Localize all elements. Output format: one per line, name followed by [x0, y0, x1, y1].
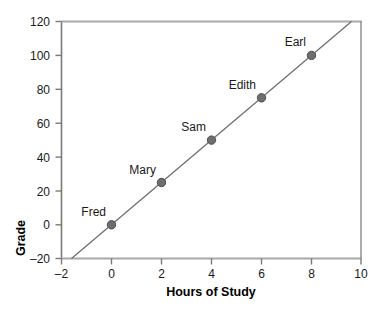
point-label-fred: Fred: [81, 205, 106, 219]
y-tick-label-neg20: –20: [30, 252, 50, 266]
y-tick-label-0: 0: [43, 218, 50, 232]
data-point-labels: Fred Mary Sam Edith Earl: [81, 35, 306, 219]
data-point-fred[interactable]: [107, 221, 115, 229]
x-tick-label-0: 0: [108, 267, 115, 281]
data-point-mary[interactable]: [157, 178, 165, 186]
y-tick-labels: 120 100 80 60 40 20 0 –20: [30, 15, 50, 266]
x-axis-title: Hours of Study: [166, 285, 256, 299]
x-tick-label-6: 6: [258, 267, 265, 281]
y-axis-ticks: [56, 22, 62, 259]
chart-canvas: 120 100 80 60 40 20 0 –20 –2 0 2 4 6 8 1…: [0, 0, 389, 316]
data-point-edith[interactable]: [257, 94, 265, 102]
y-tick-label-20: 20: [37, 185, 51, 199]
point-label-edith: Edith: [229, 78, 256, 92]
x-tick-label-8: 8: [308, 267, 315, 281]
y-tick-label-40: 40: [37, 151, 51, 165]
y-tick-label-120: 120: [30, 15, 50, 29]
x-tick-label-10: 10: [354, 267, 368, 281]
point-label-sam: Sam: [181, 120, 206, 134]
point-label-mary: Mary: [129, 163, 156, 177]
y-tick-label-80: 80: [37, 83, 51, 97]
scatter-chart: 120 100 80 60 40 20 0 –20 –2 0 2 4 6 8 1…: [0, 0, 389, 316]
y-tick-label-60: 60: [37, 117, 51, 131]
x-tick-label-4: 4: [208, 267, 215, 281]
x-tick-label-neg2: –2: [55, 267, 69, 281]
x-tick-label-2: 2: [158, 267, 165, 281]
data-point-earl[interactable]: [307, 51, 315, 59]
y-axis-title: Grade: [14, 220, 28, 256]
data-point-sam[interactable]: [207, 136, 215, 144]
point-label-earl: Earl: [285, 35, 306, 49]
y-tick-label-100: 100: [30, 49, 50, 63]
x-tick-labels: –2 0 2 4 6 8 10: [55, 267, 368, 281]
